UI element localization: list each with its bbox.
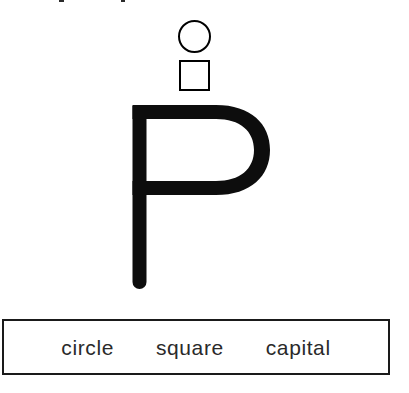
letter-p-glyph	[120, 98, 285, 298]
square-shape	[179, 60, 210, 91]
capital-letter-p	[120, 98, 285, 298]
shape-prompt-group	[178, 20, 218, 96]
cropped-text-remnant	[0, 0, 409, 4]
circle-shape	[178, 20, 211, 53]
word-option-circle[interactable]: circle	[61, 337, 114, 358]
word-bank-row: circle square capital	[4, 321, 388, 373]
letter-p-bowl	[133, 105, 271, 195]
ink-speck	[59, 0, 64, 2]
letter-p-stem	[133, 106, 147, 289]
word-bank-box: circle square capital	[2, 319, 390, 375]
word-option-capital[interactable]: capital	[266, 337, 331, 358]
word-option-square[interactable]: square	[156, 337, 224, 358]
worksheet-canvas: circle square capital	[0, 0, 409, 393]
ink-speck	[121, 0, 125, 2]
